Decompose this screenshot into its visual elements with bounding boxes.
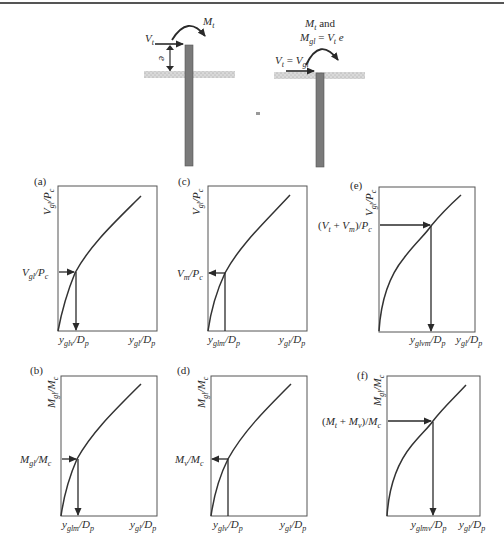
marker-x-label: yglvm/Dp bbox=[409, 333, 445, 348]
y-axis-label: Vgl/Pc bbox=[190, 188, 205, 215]
chart-panel-f: (f) Mgl/Mc (Mt + Mv)/Mc yglmv/Dp ygl/Dp bbox=[322, 369, 485, 533]
lateral-load-label: Vt = Vgl bbox=[275, 54, 309, 69]
moment-label-line2: Mgl = Vt e bbox=[299, 31, 344, 46]
plot-frame bbox=[61, 376, 157, 516]
marker-y-label: Mgl/Mc bbox=[19, 453, 52, 468]
panel-tag: (f) bbox=[357, 369, 368, 382]
moment-arrow bbox=[172, 26, 205, 40]
marker-x-label: yglm/Dp bbox=[61, 518, 94, 533]
curve bbox=[208, 195, 290, 331]
x-axis-label: ygl/Dp bbox=[279, 518, 306, 533]
marker-y-label: Vm/Pc bbox=[177, 267, 203, 282]
panel-tag: (d) bbox=[177, 364, 190, 377]
pile bbox=[316, 73, 324, 167]
moment-label: Mt bbox=[202, 15, 215, 30]
marker-x-label: yglm/Dp bbox=[207, 333, 240, 348]
y-axis-label: Mgl/Mc bbox=[195, 376, 210, 409]
x-axis-label: ygl/Dp bbox=[129, 518, 156, 533]
marker-x-label: yglmv/Dp bbox=[410, 518, 446, 533]
marker-y-label: Vgl/Pc bbox=[22, 266, 49, 281]
chart-panel-b: (b) Mgl/Mc Mgl/Mc yglm/Dp ygl/Dp bbox=[19, 364, 157, 533]
chart-panel-c: (c) Vgl/Pc Vm/Pc yglm/Dp ygl/Dp bbox=[177, 175, 307, 348]
panel-tag: (b) bbox=[30, 364, 43, 377]
y-axis-label: Mgl/Mc bbox=[371, 374, 386, 407]
y-axis-label: Mgl/Mc bbox=[45, 376, 60, 409]
moment-label-line1: Mt and bbox=[304, 17, 336, 32]
marker-y-label: Mv/Mc bbox=[174, 453, 204, 468]
x-axis-label: ygl/Dp bbox=[455, 333, 482, 348]
panel-tag: (c) bbox=[178, 175, 191, 188]
curve bbox=[58, 196, 141, 331]
plot-frame bbox=[379, 187, 475, 332]
pile bbox=[185, 45, 193, 166]
plot-frame bbox=[208, 186, 307, 331]
y-axis-label: Vgl/Pc bbox=[41, 188, 56, 215]
chart-panel-d: (d) Mgl/Mc Mv/Mc yglv/Dp ygl/Dp bbox=[174, 364, 307, 533]
chart-panel-a: (a) Vgl/Pc Vgl/Pc yglv/Dp ygl/Dp bbox=[22, 175, 157, 348]
panel-tag: (a) bbox=[34, 175, 47, 188]
figure-canvas: Vt Mt e Mt and Mgl = Vt e Vt = Vgl (a) V… bbox=[0, 0, 504, 552]
plot-frame bbox=[58, 186, 157, 331]
curve bbox=[211, 384, 291, 516]
y-axis-label: Vgl/Pc bbox=[363, 189, 378, 216]
x-axis-label: ygl/Dp bbox=[458, 518, 485, 533]
marker-x-label: yglv/Dp bbox=[212, 518, 243, 533]
chart-panel-e: (e) Vgl/Pc (Vt + Vm)/Pc yglvm/Dp ygl/Dp bbox=[318, 179, 482, 348]
x-axis-label: ygl/Dp bbox=[128, 333, 155, 348]
equals-sign bbox=[256, 112, 260, 115]
eccentricity-label: e bbox=[157, 56, 169, 61]
moment-arrow bbox=[306, 49, 338, 65]
x-axis-label: ygl/Dp bbox=[278, 333, 305, 348]
plot-frame bbox=[211, 376, 307, 516]
curve bbox=[387, 385, 466, 516]
curve bbox=[61, 384, 141, 516]
pile-diagram-left: Vt Mt e bbox=[144, 15, 235, 166]
pile-diagram-right: Mt and Mgl = Vt e Vt = Vgl bbox=[274, 17, 365, 167]
panel-tag: (e) bbox=[350, 179, 363, 192]
curve bbox=[379, 195, 461, 331]
lateral-load-label: Vt bbox=[145, 32, 155, 47]
marker-x-label: yglv/Dp bbox=[58, 333, 89, 348]
marker-y-label: (Vt + Vm)/Pc bbox=[318, 219, 372, 234]
marker-y-label: (Mt + Mv)/Mc bbox=[322, 415, 381, 430]
